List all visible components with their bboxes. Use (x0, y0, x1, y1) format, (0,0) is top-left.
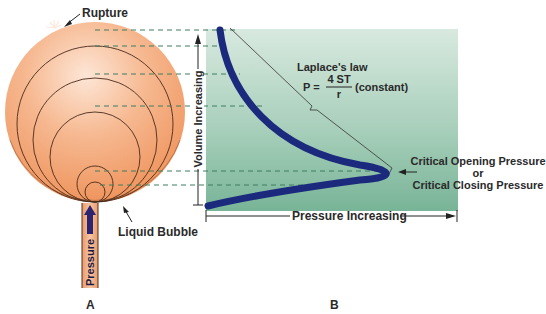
panel-b-letter: B (330, 298, 339, 312)
laplace-suffix: (constant) (355, 81, 408, 93)
y-axis-label: Volume Increasing (192, 69, 204, 169)
liquid-bubble-pointer-arrow-icon (123, 206, 132, 222)
liquid-bubble (5, 20, 185, 202)
rupture-mark (46, 20, 61, 28)
laplace-figure: Rupture Liquid Bubble Pressure A Volume … (0, 0, 546, 314)
laplace-denominator: r (324, 88, 354, 100)
pressure-tube-label: Pressure (84, 242, 96, 286)
critical-pressure-line1: Critical Opening Pressure (410, 155, 546, 167)
laplace-numerator: 4 ST (324, 73, 354, 85)
rupture-label: Rupture (82, 6, 128, 20)
panel-a-letter: A (86, 298, 95, 312)
critical-pressure-line3: Critical Closing Pressure (410, 179, 546, 191)
critical-pressure-line2: or (410, 167, 546, 179)
laplace-lhs: P = (303, 81, 320, 93)
x-axis-label: Pressure Increasing (292, 209, 407, 223)
liquid-bubble-label: Liquid Bubble (118, 225, 198, 239)
laplace-law-title: Laplace's law (297, 61, 368, 73)
